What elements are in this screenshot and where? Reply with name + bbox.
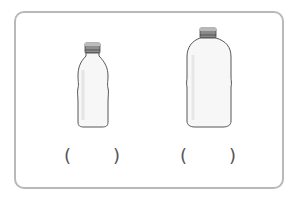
close-paren: ) bbox=[229, 147, 236, 165]
small-bottle-icon bbox=[74, 40, 114, 130]
open-paren: ( bbox=[64, 147, 71, 165]
figure-frame bbox=[14, 11, 284, 189]
large-bottle-icon bbox=[183, 25, 235, 131]
close-paren: ) bbox=[113, 147, 120, 165]
open-paren: ( bbox=[180, 147, 187, 165]
